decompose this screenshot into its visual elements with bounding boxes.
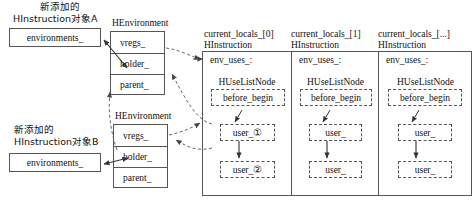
henvironment-2-field-parent: parent_ — [114, 167, 167, 188]
henvironment-1-title: HEnvironment — [112, 18, 168, 29]
panel-current-locals-1: env_uses_: HUseListNode before_begin use… — [291, 52, 378, 195]
object-b-caption-line2: HInstruction对象B — [14, 136, 99, 148]
henvironment-1-box: vregs_ holder_ parent_ — [110, 31, 165, 95]
panel-2-title-line1: current_locals_[...] — [378, 29, 450, 40]
panel-1-before-begin-node: before_begin — [300, 89, 372, 106]
arrow-env1-vregs-to-panel0 — [166, 48, 200, 59]
panel-2-title-line2: HInstruction — [378, 40, 426, 51]
panel-1-env-uses-label: env_uses_: — [299, 55, 341, 65]
panel-2-node-type: HUseListNode — [379, 77, 472, 87]
panel-0-title-line1: current_locals_[0] — [204, 29, 274, 40]
henvironment-2-title: HEnvironment — [115, 111, 171, 122]
henvironment-2-field-holder: holder_ — [114, 146, 167, 167]
panel-current-locals-2: env_uses_: HUseListNode before_begin use… — [378, 52, 471, 195]
panel-0-title-line2: HInstruction — [204, 40, 252, 51]
object-a-environments-field: environments_ — [9, 28, 101, 47]
object-b-caption-line1: 新添加的 — [14, 124, 54, 136]
current-locals-panel-group: env_uses_: HUseListNode before_begin use… — [202, 51, 472, 196]
panel-2-env-uses-label: env_uses_: — [386, 55, 428, 65]
panel-0-before-begin-node: before_begin — [211, 89, 285, 106]
henvironment-1-field-holder: holder_ — [111, 53, 164, 74]
panel-0-node-type: HUseListNode — [203, 77, 291, 87]
panel-0-user-node-2: user_② — [220, 161, 275, 178]
henvironment-1-field-vregs: vregs_ — [111, 32, 164, 53]
object-a-caption-line2: HInstruction对象A — [13, 13, 98, 25]
object-b-environments-field: environments_ — [9, 153, 101, 172]
panel-1-user-node-2: user_ — [309, 161, 362, 178]
panel-1-title-line1: current_locals_[1] — [291, 29, 361, 40]
panel-2-user-node-1: user_ — [398, 124, 452, 141]
panel-1-title-line2: HInstruction — [291, 40, 339, 51]
panel-0-env-uses-label: env_uses_: — [210, 55, 252, 65]
panel-2-before-begin-node: before_begin — [388, 89, 462, 106]
panel-1-node-type: HUseListNode — [292, 77, 379, 87]
henvironment-2-field-vregs: vregs_ — [114, 125, 167, 146]
arrow-env2-vregs-to-panel0 — [169, 123, 200, 135]
object-a-caption-line1: 新添加的 — [40, 1, 80, 13]
panel-1-user-node-1: user_ — [309, 124, 362, 141]
diagram-canvas: 新添加的 HInstruction对象A environments_ 新添加的 … — [0, 0, 475, 210]
panel-current-locals-0: env_uses_: HUseListNode before_begin use… — [203, 52, 291, 195]
panel-0-user-node-1: user_① — [220, 124, 275, 141]
henvironment-2-box: vregs_ holder_ parent_ — [113, 124, 168, 188]
panel-2-user-node-2: user_ — [398, 161, 452, 178]
henvironment-1-field-parent: parent_ — [111, 74, 164, 95]
